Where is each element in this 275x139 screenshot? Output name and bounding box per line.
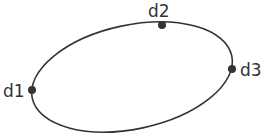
- point-d3-label: d3: [240, 60, 262, 80]
- point-d3-marker: [228, 65, 236, 73]
- ellipse-diagram: d1 d2 d3: [0, 0, 275, 139]
- point-d1-label: d1: [3, 81, 25, 101]
- point-d1-marker: [28, 86, 36, 94]
- ellipse-curve: [21, 5, 242, 139]
- point-d2-label: d2: [148, 1, 170, 21]
- point-d2-marker: [158, 21, 166, 29]
